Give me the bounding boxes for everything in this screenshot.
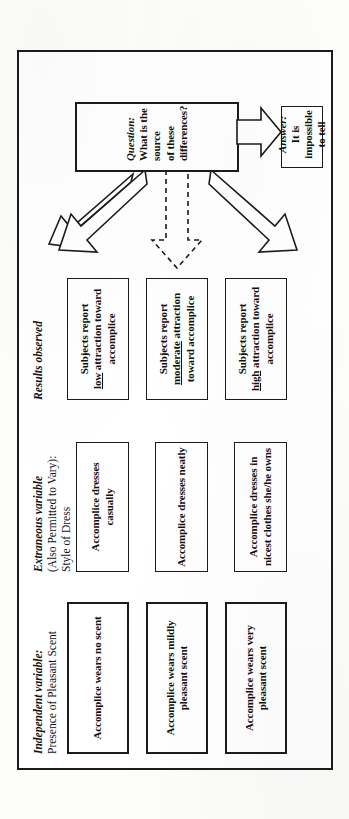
scanned-page: Independent variable: Presence of Pleasa… xyxy=(0,0,349,819)
heading-independent-variable: Independent variable: Presence of Pleasa… xyxy=(31,631,59,754)
heading-results-observed-italic: Results observed xyxy=(31,321,45,400)
results-box-3-emphasis: high xyxy=(249,370,261,390)
heading-independent-variable-italic: Independent variable: xyxy=(31,631,45,754)
answer-box-label: Answer: xyxy=(275,115,287,152)
question-box-label: Question: xyxy=(124,117,136,161)
question-box: Question: What is the source of these di… xyxy=(75,102,239,172)
heading-extraneous-variable-line3: Style of Dress xyxy=(59,455,73,571)
arrow-question-to-results-2 xyxy=(144,168,210,274)
answer-box-line2: to tell xyxy=(315,121,327,147)
results-box-1-emphasis: low xyxy=(91,372,103,388)
independent-variable-box-3-text: Accomplice wears very pleasant scent xyxy=(242,608,268,748)
results-box-3-text: Subjects report high attraction toward a… xyxy=(236,283,276,395)
results-box-1-pre: Subjects report xyxy=(78,303,90,374)
extraneous-variable-box-2-text: Accomplice dresses neatly xyxy=(174,447,187,567)
arrow-question-to-results-1 xyxy=(47,172,145,272)
heading-results-observed: Results observed xyxy=(31,321,45,400)
heading-extraneous-variable: Extraneous variable (Also Permitted to V… xyxy=(31,455,73,571)
extraneous-variable-box-1: Accomplice dresses casually xyxy=(76,442,129,572)
independent-variable-box-1-text: Accomplice wears no scent xyxy=(91,616,104,739)
answer-box: Answer: It is impossible to tell xyxy=(281,106,323,168)
results-box-2: Subjects report moderate attraction towa… xyxy=(146,278,208,400)
results-box-3-post: attraction toward accomplice xyxy=(249,286,274,367)
answer-box-line1: It is impossible xyxy=(288,110,313,159)
results-box-2-pre: Subjects report xyxy=(157,303,169,374)
results-box-2-emphasis: moderate xyxy=(170,341,182,385)
results-box-1: Subjects report low attraction toward ac… xyxy=(67,278,129,400)
rotated-figure-container: Independent variable: Presence of Pleasa… xyxy=(17,50,333,770)
results-box-3: Subjects report high attraction toward a… xyxy=(225,278,287,400)
question-box-line1: What is the source xyxy=(137,108,162,161)
results-box-3-pre: Subjects report xyxy=(236,303,248,374)
independent-variable-box-1: Accomplice wears no scent xyxy=(67,602,129,754)
answer-box-text: Answer: It is impossible to tell xyxy=(275,110,328,159)
figure-outer-border: Independent variable: Presence of Pleasa… xyxy=(17,50,333,770)
arrow-question-to-results-1-body xyxy=(45,168,149,274)
extraneous-variable-box-1-text: Accomplice dresses casually xyxy=(89,447,115,567)
extraneous-variable-box-3-text: Accomplice dresses in nicest clothes she… xyxy=(247,447,273,567)
arrow-question-to-results-3 xyxy=(207,168,311,274)
heading-independent-variable-rest: Presence of Pleasant Scent xyxy=(45,631,59,754)
results-box-1-post: attraction toward accomplice xyxy=(91,289,116,370)
heading-extraneous-variable-line2: (Also Permitted to Vary): xyxy=(45,455,59,571)
heading-extraneous-variable-italic: Extraneous variable xyxy=(31,455,45,571)
results-box-1-text: Subjects report low attraction toward ac… xyxy=(78,283,118,395)
independent-variable-box-2: Accomplice wears mildly pleasant scent xyxy=(146,602,208,754)
independent-variable-box-2-text: Accomplice wears mildly pleasant scent xyxy=(163,608,189,748)
results-box-2-text: Subjects report moderate attraction towa… xyxy=(157,283,197,395)
extraneous-variable-box-2: Accomplice dresses neatly xyxy=(155,442,208,572)
extraneous-variable-box-3: Accomplice dresses in nicest clothes she… xyxy=(234,442,287,572)
question-box-line2: of these differences? xyxy=(163,105,188,160)
question-box-text: Question: What is the source of these di… xyxy=(124,105,190,160)
independent-variable-box-3: Accomplice wears very pleasant scent xyxy=(225,602,287,754)
